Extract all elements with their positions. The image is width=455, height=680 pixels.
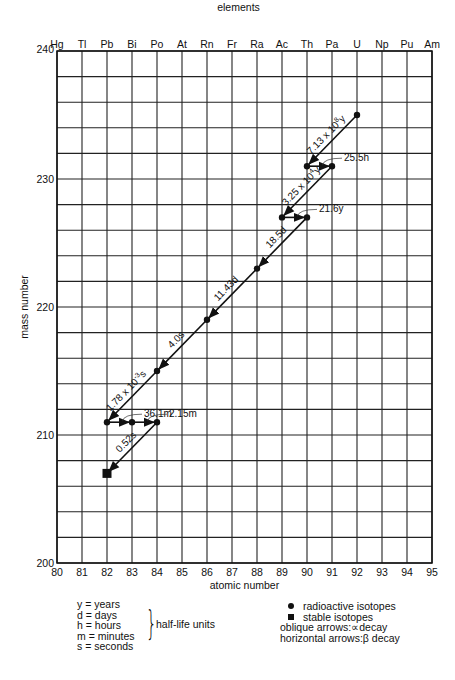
x-tick-label: 87: [226, 566, 238, 578]
y-tick-label: 230: [36, 173, 54, 185]
x-tick-label: 94: [401, 566, 413, 578]
y-tick-label: 240: [36, 43, 54, 55]
radioactive-isotope-marker: [329, 163, 335, 169]
top-axis-title: elements: [217, 1, 260, 13]
radioactive-isotope-marker: [304, 163, 310, 169]
element-label: Rn: [200, 38, 214, 50]
half-life-label: 7.13 x 108y: [304, 112, 348, 156]
half-life-label: 0.52s: [113, 429, 138, 454]
y-tick-label: 220: [36, 301, 54, 313]
y-tick-label: 210: [36, 429, 54, 441]
stable-square-icon: [288, 614, 294, 620]
x-axis-title: atomic number: [210, 579, 280, 590]
y-tick-label: 200: [36, 557, 54, 569]
unit-row-seconds: s = seconds: [77, 641, 134, 652]
x-tick-label: 93: [376, 566, 388, 578]
x-tick-label: 92: [351, 566, 363, 578]
half-life-label: 36.1m: [144, 408, 172, 419]
element-label: Np: [375, 38, 389, 50]
radioactive-dot-icon: [288, 603, 294, 609]
x-tick-label: 86: [201, 566, 213, 578]
half-life-label: 18.5d: [263, 224, 288, 250]
element-label: Th: [301, 38, 313, 50]
x-tick-label: 89: [276, 566, 288, 578]
x-tick-label: 90: [301, 566, 313, 578]
decay-chart: 80818283848586878889909192939495HgTlPbBi…: [0, 0, 455, 590]
x-tick-label: 83: [126, 566, 138, 578]
x-tick-label: 84: [151, 566, 163, 578]
stable-isotope-marker: [103, 469, 112, 478]
x-tick-label: 82: [101, 566, 113, 578]
half-life-label: 11.43d: [212, 274, 241, 303]
element-label: Tl: [78, 38, 87, 50]
x-tick-label: 81: [76, 566, 88, 578]
radioactive-isotope-marker: [279, 214, 285, 220]
element-label: Bi: [127, 38, 136, 50]
legend-horizontal: horizontal arrows:β decay: [280, 633, 400, 644]
radioactive-isotope-marker: [254, 265, 260, 271]
x-tick-label: 95: [426, 566, 438, 578]
radioactive-isotope-marker: [104, 419, 110, 425]
units-group-label: half-life units: [156, 618, 215, 630]
element-label: Ac: [276, 38, 288, 50]
element-label: Am: [424, 38, 440, 50]
half-life-label: 2.15m: [169, 408, 197, 419]
half-life-label: 1.78 x 10-3s: [103, 367, 148, 413]
x-tick-label: 85: [176, 566, 188, 578]
radioactive-isotope-marker: [154, 419, 160, 425]
element-label: Ra: [250, 38, 264, 50]
half-life-units-legend: y = years d = days h = hours m = minutes…: [77, 599, 134, 652]
legend-oblique: oblique arrows:∝decay: [280, 622, 400, 633]
half-life-label: 4.0s: [165, 329, 186, 350]
element-label: Fr: [227, 38, 237, 50]
radioactive-isotope-marker: [154, 368, 160, 374]
radioactive-isotope-marker: [204, 317, 210, 323]
radioactive-isotope-marker: [354, 112, 360, 118]
element-label: At: [177, 38, 187, 50]
radioactive-isotope-marker: [129, 419, 135, 425]
half-life-label: 25.5h: [344, 152, 369, 163]
radioactive-isotope-marker: [304, 214, 310, 220]
x-tick-label: 91: [326, 566, 338, 578]
element-label: Pa: [326, 38, 339, 50]
element-label: Pb: [101, 38, 114, 50]
element-label: Po: [151, 38, 164, 50]
half-life-label: 3.25 x 104y: [279, 163, 323, 207]
element-label: U: [353, 38, 361, 50]
element-label: Pu: [401, 38, 414, 50]
y-axis-title: mass number: [18, 275, 30, 339]
symbol-legend: radioactive isotopes stable isotopes obl…: [280, 601, 400, 643]
x-tick-label: 88: [251, 566, 263, 578]
half-life-label: 21.6y: [319, 203, 343, 214]
